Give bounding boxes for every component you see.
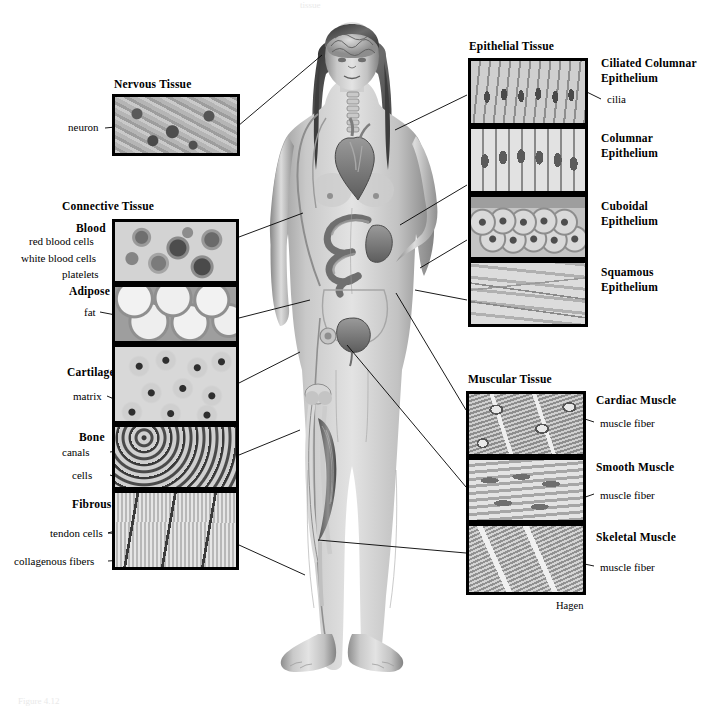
bone-micrograph[interactable] <box>112 424 239 490</box>
columnar-epithelium-micrograph[interactable] <box>468 126 588 194</box>
muscular-tissue-title: Muscular Tissue <box>468 373 552 386</box>
callout-neuron: neuron <box>68 121 99 134</box>
subgroup-title-cardiac-muscle: Cardiac Muscle <box>596 394 676 407</box>
callout-cilia: cilia <box>607 93 626 106</box>
subgroup-title-bone: Bone <box>79 431 105 444</box>
blood-micrograph[interactable] <box>112 219 239 284</box>
subgroup-title-ciliated-columnar-line1: Ciliated Columnar <box>601 57 697 70</box>
callout-tendon-cells: tendon cells <box>50 527 103 540</box>
callout-canals: canals <box>62 446 89 459</box>
subgroup-title-squamous-line1: Squamous <box>601 266 654 279</box>
subgroup-title-fibrous: Fibrous <box>72 498 112 511</box>
callout-white-blood-cells: white blood cells <box>21 252 96 265</box>
callout-smooth-muscle-fiber: muscle fiber <box>600 489 655 502</box>
skeletal-muscle-micrograph[interactable] <box>466 523 586 595</box>
nervous-tissue-title: Nervous Tissue <box>114 78 191 91</box>
callout-collagenous-fibers: collagenous fibers <box>14 555 94 568</box>
subgroup-title-skeletal-muscle: Skeletal Muscle <box>596 531 676 544</box>
subgroup-title-squamous-line2: Epithelium <box>601 281 658 294</box>
subgroup-title-smooth-muscle: Smooth Muscle <box>596 461 674 474</box>
connective-tissue-title: Connective Tissue <box>62 200 154 213</box>
leader-lines <box>0 0 703 710</box>
callout-red-blood-cells: red blood cells <box>29 235 94 248</box>
callout-platelets: platelets <box>62 268 99 281</box>
cuboidal-epithelium-micrograph[interactable] <box>468 194 588 260</box>
callout-cardiac-muscle-fiber: muscle fiber <box>600 417 655 430</box>
nervous-tissue-micrograph[interactable] <box>112 94 240 156</box>
subgroup-title-cuboidal-line2: Epithelium <box>601 215 658 228</box>
cartilage-micrograph[interactable] <box>112 344 239 424</box>
subgroup-title-blood: Blood <box>76 222 106 235</box>
callout-cells: cells <box>72 469 92 482</box>
subgroup-title-cartilage: Cartilage <box>67 366 115 379</box>
artist-signature: Hagen <box>556 600 583 612</box>
subgroup-title-columnar-line1: Columnar <box>601 132 653 145</box>
callout-fat: fat <box>84 306 96 319</box>
smooth-muscle-micrograph[interactable] <box>466 457 586 523</box>
squamous-epithelium-micrograph[interactable] <box>468 260 588 327</box>
callout-skeletal-muscle-fiber: muscle fiber <box>600 561 655 574</box>
subgroup-title-cuboidal-line1: Cuboidal <box>601 200 648 213</box>
fibrous-micrograph[interactable] <box>112 490 239 570</box>
callout-matrix: matrix <box>73 390 102 403</box>
subgroup-title-columnar-line2: Epithelium <box>601 147 658 160</box>
adipose-micrograph[interactable] <box>112 284 239 344</box>
subgroup-title-ciliated-columnar-line2: Epithelium <box>601 72 658 85</box>
subgroup-title-adipose: Adipose <box>69 285 110 298</box>
cardiac-muscle-micrograph[interactable] <box>466 391 586 457</box>
epithelial-tissue-title: Epithelial Tissue <box>469 40 554 53</box>
diagram-canvas: tissue Figure 4.12 <box>0 0 703 710</box>
ciliated-columnar-epithelium-micrograph[interactable] <box>468 58 588 126</box>
